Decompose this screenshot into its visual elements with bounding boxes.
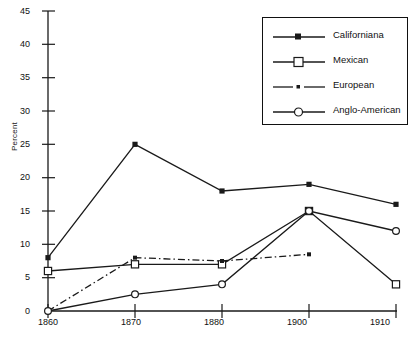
legend-swatch-dashdot-icon <box>271 79 327 91</box>
data-point-marker <box>44 267 51 274</box>
legend-label: Californiana <box>333 30 384 40</box>
data-point-marker <box>393 202 398 207</box>
data-point-marker <box>132 142 137 147</box>
data-point-marker <box>306 182 311 187</box>
series-line <box>48 211 396 284</box>
legend-label: Anglo-American <box>333 105 401 115</box>
data-point-marker <box>45 255 50 260</box>
legend-item-californiana: Californiana <box>271 28 403 42</box>
data-point-marker <box>45 308 52 315</box>
chart-container: Percent 45 40 35 30 25 20 15 10 5 0 1860… <box>0 0 416 338</box>
legend-swatch-open-square-icon <box>271 54 327 66</box>
legend-item-mexican: Mexican <box>271 53 403 67</box>
chart-legend: Californiana Mexican European <box>262 17 408 125</box>
data-point-marker <box>133 256 137 260</box>
data-point-marker <box>220 259 224 263</box>
legend-item-european: European <box>271 78 403 92</box>
data-point-marker <box>132 291 139 298</box>
data-point-marker <box>307 252 311 256</box>
legend-item-anglo-american: Anglo-American <box>271 103 403 117</box>
data-point-marker <box>306 208 313 215</box>
legend-swatch-open-circle-icon <box>271 104 327 116</box>
data-point-marker <box>131 261 138 268</box>
data-point-marker <box>219 188 224 193</box>
legend-label: European <box>333 80 374 90</box>
series-line <box>48 254 309 311</box>
data-point-marker <box>393 228 400 235</box>
data-point-marker <box>392 281 399 288</box>
series-layer <box>44 142 399 315</box>
legend-swatch-filled-square-icon <box>271 29 327 41</box>
data-point-marker <box>219 281 226 288</box>
legend-label: Mexican <box>333 55 368 65</box>
